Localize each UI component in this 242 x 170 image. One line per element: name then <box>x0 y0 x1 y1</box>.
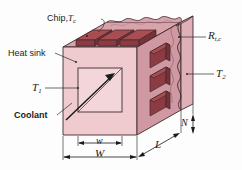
leader-dot-t2 <box>186 73 188 75</box>
dim-arrow-N-top <box>191 114 195 121</box>
dim-arrow-W-left <box>63 155 70 159</box>
chip-right-1-side <box>166 43 170 61</box>
chip-top-3-front <box>120 40 139 46</box>
chip-marker-dot <box>86 35 88 37</box>
interface-slab-face <box>181 16 193 110</box>
dim-arrow-w-left <box>78 141 84 145</box>
leader-dot-contact-resistance <box>178 36 180 38</box>
chip-right-2-side <box>166 67 170 85</box>
chip-top-2-front <box>98 40 117 46</box>
dim-arrow-L-right <box>173 133 180 138</box>
chip-top-1-front <box>76 40 95 46</box>
chip-right-3-side <box>166 91 170 109</box>
dim-arrow-w-right <box>116 141 122 145</box>
dim-line-L <box>140 134 178 156</box>
leader-dot-t1 <box>77 87 79 89</box>
figure-canvas: Chip,Tc Heat sink T1 Coolant Rt,c T2 w W… <box>0 0 242 170</box>
dim-arrow-N-bottom <box>191 127 195 134</box>
leader-dot-heat-sink <box>75 61 77 63</box>
dim-arrow-W-right <box>130 155 137 159</box>
dim-arrow-L-left <box>138 152 145 157</box>
heat-sink-diagram <box>0 0 242 170</box>
